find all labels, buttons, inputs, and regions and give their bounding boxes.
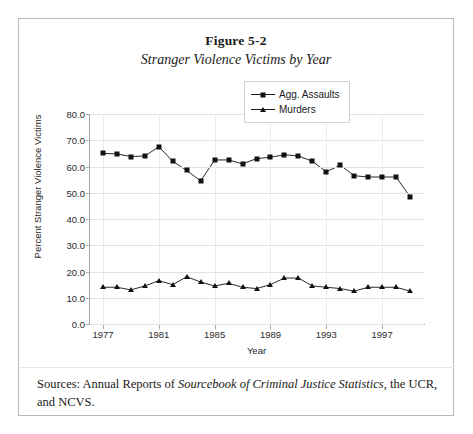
legend-marker-square-icon [251,89,275,101]
chart-region: 0.010.020.030.040.050.060.070.080.0 Perc… [19,77,455,359]
y-tick-label: 50.0 [41,187,85,198]
data-point-marker [100,284,106,289]
data-point-marker [282,152,287,157]
data-point-marker [198,178,203,183]
y-tick-mark [86,219,90,220]
data-point-marker [393,284,399,289]
data-point-marker [170,282,176,287]
data-point-marker [212,283,218,288]
data-point-marker [267,282,273,287]
x-tick-label: 1997 [372,329,393,340]
gridline-vertical [215,114,216,324]
y-tick-label: 60.0 [41,161,85,172]
chart-legend: Agg. Assaults Murders [244,81,350,123]
data-point-marker [337,285,343,290]
data-point-marker [184,274,190,279]
y-tick-mark [86,167,90,168]
y-tick-label: 0.0 [41,319,85,330]
data-point-marker [142,154,147,159]
data-point-marker [170,159,175,164]
legend-item-agg-assaults: Agg. Assaults [251,87,340,102]
figure-subtitle: Stranger Violence Victims by Year [19,52,453,68]
gridline-horizontal [89,298,424,299]
y-tick-label: 40.0 [41,214,85,225]
data-point-marker [212,157,217,162]
data-point-marker [128,154,133,159]
data-point-marker [309,283,315,288]
legend-label-murders: Murders [279,104,316,115]
legend-marker-triangle-icon [251,104,275,116]
data-point-marker [380,175,385,180]
data-point-marker [281,275,287,280]
y-tick-mark [86,114,90,115]
data-point-marker [226,280,232,285]
gridline-horizontal [89,245,424,246]
gridline-horizontal [89,219,424,220]
data-point-marker [324,169,329,174]
data-point-marker [366,175,371,180]
x-tick-mark [326,325,327,329]
y-tick-mark [86,140,90,141]
data-point-marker [365,284,371,289]
note-divider [20,367,454,368]
data-point-marker [351,288,357,293]
y-tick-label: 30.0 [41,240,85,251]
y-tick-mark [86,193,90,194]
y-tick-label: 10.0 [41,292,85,303]
data-point-marker [142,283,148,288]
y-tick-mark [86,324,90,325]
gridline-horizontal [89,193,424,194]
data-point-marker [184,168,189,173]
data-point-marker [156,278,162,283]
x-tick-label: 1989 [260,329,281,340]
x-tick-label: 1977 [92,329,113,340]
x-tick-mark [159,325,160,329]
x-tick-mark [103,325,104,329]
y-tick-label: 20.0 [41,266,85,277]
gridline-horizontal [89,324,424,325]
source-note-prefix: Sources: Annual Reports of [37,377,178,391]
gridline-horizontal [89,272,424,273]
legend-item-murders: Murders [251,102,340,117]
series-line-agg-assaults [103,147,410,197]
data-point-marker [226,157,231,162]
data-point-marker [352,173,357,178]
data-point-marker [407,288,413,293]
x-tick-label: 1985 [204,329,225,340]
source-note-italic-title: Sourcebook of Criminal Justice Statistic… [178,377,387,391]
data-point-marker [408,194,413,199]
data-point-marker [268,155,273,160]
x-tick-label: 1993 [316,329,337,340]
figure-title-block: Figure 5-2 Stranger Violence Victims by … [19,33,453,68]
data-point-marker [379,284,385,289]
data-point-marker [198,279,204,284]
y-tick-label: 80.0 [41,109,85,120]
gridline-vertical [103,114,104,324]
y-tick-mark [86,298,90,299]
x-tick-mark [270,325,271,329]
x-tick-label: 1981 [148,329,169,340]
gridline-horizontal [89,167,424,168]
data-point-marker [114,151,119,156]
data-point-marker [100,151,105,156]
data-point-marker [254,285,260,290]
data-point-marker [394,175,399,180]
x-tick-mark [382,325,383,329]
x-axis-title: Year [89,345,424,356]
gridline-vertical [270,114,271,324]
gridline-horizontal [89,140,424,141]
data-point-marker [114,284,120,289]
figure-frame: Figure 5-2 Stranger Violence Victims by … [18,18,454,416]
data-point-marker [310,159,315,164]
data-point-marker [254,156,259,161]
gridline-vertical [326,114,327,324]
figure-number: Figure 5-2 [19,33,453,49]
legend-label-agg-assaults: Agg. Assaults [279,89,340,100]
y-tick-mark [86,245,90,246]
y-tick-mark [86,272,90,273]
x-tick-mark [215,325,216,329]
data-point-marker [240,161,245,166]
data-point-marker [338,163,343,168]
source-note: Sources: Annual Reports of Sourcebook of… [37,375,441,411]
plot-area [89,114,424,324]
